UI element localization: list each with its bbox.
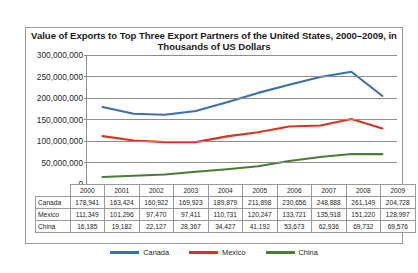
y-axis-tick bbox=[84, 98, 87, 99]
series-line-china bbox=[103, 154, 383, 177]
table-cell: 128,997 bbox=[381, 209, 416, 221]
gridline bbox=[87, 119, 397, 120]
data-table: 2000200120022003200420052006200720082009… bbox=[35, 184, 416, 233]
table-cell: 69,576 bbox=[381, 221, 416, 233]
table-cell: 111,349 bbox=[70, 209, 105, 221]
table-corner-cell bbox=[36, 185, 71, 197]
y-axis-label: 300,000,000 bbox=[37, 50, 83, 60]
table-row: China16,18519,18222,12728,36734,42741,19… bbox=[36, 221, 416, 233]
table-cell: 120,247 bbox=[243, 209, 278, 221]
table-cell: 135,918 bbox=[312, 209, 347, 221]
table-column-header: 2003 bbox=[174, 185, 209, 197]
table-column-header: 2009 bbox=[381, 185, 416, 197]
plot-area bbox=[86, 55, 397, 184]
table-column-header: 2000 bbox=[70, 185, 105, 197]
table-cell: 97,470 bbox=[139, 209, 174, 221]
table-header-row: 2000200120022003200420052006200720082009 bbox=[36, 185, 416, 197]
y-axis-label: 50,000,000 bbox=[41, 158, 83, 168]
y-axis-tick bbox=[84, 55, 87, 56]
table-column-header: 2001 bbox=[105, 185, 140, 197]
table-column-header: 2007 bbox=[312, 185, 347, 197]
y-axis-labels: 300,000,000250,000,000200,000,000150,000… bbox=[18, 48, 83, 191]
gridline bbox=[87, 162, 397, 163]
table-row-header: Canada bbox=[36, 197, 71, 209]
table-row: Canada178,941163,424160,922169,923189,87… bbox=[36, 197, 416, 209]
series-line-mexico bbox=[103, 119, 383, 142]
table-column-header: 2002 bbox=[139, 185, 174, 197]
table-row-header: China bbox=[36, 221, 71, 233]
gridline bbox=[87, 76, 397, 77]
y-axis-label: 250,000,000 bbox=[37, 72, 83, 82]
table-cell: 169,923 bbox=[174, 197, 209, 209]
table-cell: 151,220 bbox=[346, 209, 381, 221]
table-cell: 101,296 bbox=[105, 209, 140, 221]
table-cell: 16,185 bbox=[70, 221, 105, 233]
table-header: 2000200120022003200420052006200720082009 bbox=[36, 185, 416, 197]
table-cell: 189,879 bbox=[208, 197, 243, 209]
legend-swatch-icon bbox=[189, 251, 218, 253]
table-cell: 41,192 bbox=[243, 221, 278, 233]
table-row: Mexico111,349101,29697,47097,411110,7311… bbox=[36, 209, 416, 221]
table-cell: 69,732 bbox=[346, 221, 381, 233]
legend-swatch-icon bbox=[266, 251, 295, 253]
table-cell: 22,127 bbox=[139, 221, 174, 233]
table-cell: 110,731 bbox=[208, 209, 243, 221]
table-cell: 34,427 bbox=[208, 221, 243, 233]
table-cell: 53,673 bbox=[277, 221, 312, 233]
gridline bbox=[87, 141, 397, 142]
legend-swatch-icon bbox=[110, 251, 139, 253]
y-axis-label: 200,000,000 bbox=[37, 93, 83, 103]
y-axis-label: 100,000,000 bbox=[37, 136, 83, 146]
table-cell: 97,411 bbox=[174, 209, 209, 221]
table-cell: 19,182 bbox=[105, 221, 140, 233]
chart-legend: CanadaMexicoChina bbox=[25, 248, 403, 257]
legend-label: Canada bbox=[143, 248, 169, 257]
table-cell: 163,424 bbox=[105, 197, 140, 209]
legend-label: China bbox=[299, 248, 318, 257]
table-cell: 204,728 bbox=[381, 197, 416, 209]
table-cell: 62,936 bbox=[312, 221, 347, 233]
table-cell: 211,898 bbox=[243, 197, 278, 209]
y-axis-tick bbox=[84, 76, 87, 77]
table-body: Canada178,941163,424160,922169,923189,87… bbox=[36, 197, 416, 233]
legend-item-china[interactable]: China bbox=[266, 248, 318, 257]
table-cell: 133,721 bbox=[277, 209, 312, 221]
table-column-header: 2008 bbox=[346, 185, 381, 197]
chart-figure: Value of Exports to Top Three Export Par… bbox=[0, 0, 418, 273]
legend-label: Mexico bbox=[222, 248, 245, 257]
chart-title: Value of Exports to Top Three Export Par… bbox=[30, 30, 398, 53]
y-axis-tick bbox=[84, 162, 87, 163]
table-cell: 160,922 bbox=[139, 197, 174, 209]
table-column-header: 2005 bbox=[243, 185, 278, 197]
legend-item-mexico[interactable]: Mexico bbox=[189, 248, 245, 257]
table-cell: 248,888 bbox=[312, 197, 347, 209]
table-cell: 28,367 bbox=[174, 221, 209, 233]
table-column-header: 2004 bbox=[208, 185, 243, 197]
gridline bbox=[87, 98, 397, 99]
table-row-header: Mexico bbox=[36, 209, 71, 221]
gridline bbox=[87, 55, 397, 56]
legend-item-canada[interactable]: Canada bbox=[110, 248, 169, 257]
table-column-header: 2006 bbox=[277, 185, 312, 197]
y-axis-tick bbox=[84, 119, 87, 120]
table-cell: 178,941 bbox=[70, 197, 105, 209]
table-cell: 230,656 bbox=[277, 197, 312, 209]
table-cell: 261,149 bbox=[346, 197, 381, 209]
y-axis-tick bbox=[84, 141, 87, 142]
series-line-canada bbox=[103, 72, 383, 115]
y-axis-label: 150,000,000 bbox=[37, 115, 83, 125]
